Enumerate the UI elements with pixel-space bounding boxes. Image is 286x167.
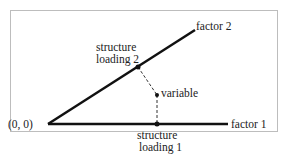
projection-line-2 <box>138 67 157 95</box>
loading2-label-line1: structure <box>96 41 136 53</box>
factor-diagram: (0, 0) factor 1 factor 2 variable struct… <box>0 0 286 167</box>
factor2-label: factor 2 <box>196 20 232 32</box>
loading1-label-line1: structure <box>137 129 177 141</box>
variable-point <box>155 93 159 97</box>
loading2-point <box>136 65 141 70</box>
loading2-label-line2: loading 2 <box>96 53 139 66</box>
origin-label: (0, 0) <box>8 118 33 131</box>
factor1-label: factor 1 <box>231 118 267 130</box>
variable-label: variable <box>161 87 198 99</box>
loading1-label-line2: loading 1 <box>139 141 182 154</box>
loading1-point <box>155 122 160 127</box>
